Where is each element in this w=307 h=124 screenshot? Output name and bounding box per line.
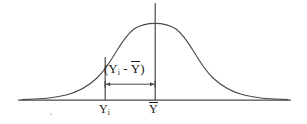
deviation-close-paren: ) [140, 61, 144, 76]
axis-ybar-symbol: Y [149, 103, 158, 115]
axis-label-observation: Yi [99, 103, 110, 117]
deviation-label: (Yi - Y) [104, 62, 145, 77]
deviation-y-symbol: Y [108, 61, 117, 76]
axis-yi-symbol: Y [99, 102, 108, 116]
normal-distribution-figure: (Yi - Y) Yi Y [0, 0, 307, 124]
deviation-arrow [105, 81, 155, 87]
axis-yi-subscript: i [108, 108, 110, 117]
scan-artifact-dot [50, 113, 52, 115]
deviation-minus-sign: - [120, 61, 131, 76]
deviation-ybar-symbol: Y [131, 62, 140, 75]
axis-label-mean: Y [149, 103, 158, 115]
